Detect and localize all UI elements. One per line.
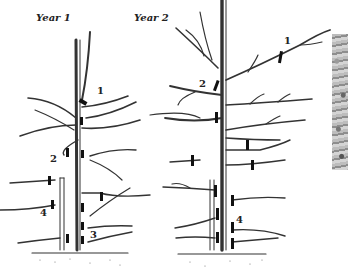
photo-strip xyxy=(332,34,348,170)
year-1-tree xyxy=(0,32,150,253)
cut-markers xyxy=(48,51,283,249)
year-2-tree xyxy=(150,0,330,254)
tree-illustrations xyxy=(0,0,348,279)
pruning-diagram: Year 1 1 2 4 3 Year 2 1 2 4 xyxy=(0,0,348,279)
